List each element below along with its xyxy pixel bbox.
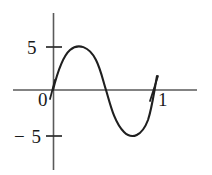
y-axis-label-negative-5: − 5: [14, 127, 42, 146]
sine-curve: [53, 46, 157, 136]
y-axis-label-5: 5: [27, 38, 37, 57]
sine-curve-figure: 5 − 5 0 1: [0, 0, 212, 175]
x-axis-label-1: 1: [158, 90, 168, 109]
origin-label: 0: [38, 90, 48, 109]
plot-canvas: [0, 0, 212, 175]
